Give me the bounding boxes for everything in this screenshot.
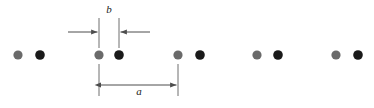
lattice-diagram-figure: b a: [0, 0, 374, 108]
light-atom: [331, 50, 340, 59]
dimension-b-group: b: [68, 3, 150, 48]
dimension-b-label: b: [106, 3, 112, 15]
lattice-diagram-canvas: b a: [0, 0, 374, 108]
dark-atom: [353, 50, 363, 60]
dimension-a-label: a: [136, 85, 142, 97]
dark-atom: [195, 50, 205, 60]
dark-atom: [35, 50, 45, 60]
light-atom: [94, 50, 103, 59]
light-atom: [173, 50, 182, 59]
dark-atom: [273, 50, 283, 60]
dimension-a-group: a: [99, 64, 178, 97]
atom-chain: [13, 50, 362, 60]
light-atom: [252, 50, 261, 59]
light-atom: [13, 50, 22, 59]
dark-atom: [114, 50, 124, 60]
